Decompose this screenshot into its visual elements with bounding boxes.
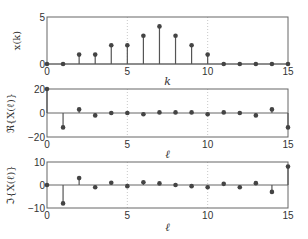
stem-marker: [205, 185, 210, 190]
x-tick-label: 5: [125, 210, 131, 221]
axes-box: [47, 17, 288, 64]
stem-marker: [93, 52, 98, 57]
y-axis-label: ℑ{X(ℓ)}: [5, 165, 16, 204]
stem-marker: [109, 111, 114, 116]
x-axis-label: ℓ: [165, 221, 170, 234]
stem-marker: [238, 185, 243, 190]
stem-marker: [238, 62, 243, 67]
x-tick-label: 15: [282, 210, 294, 221]
stem-marker: [238, 111, 243, 116]
stem-marker: [77, 107, 82, 112]
stem-marker: [205, 52, 210, 57]
stem-marker: [221, 62, 226, 67]
stem-marker: [173, 110, 178, 115]
stem-marker: [157, 24, 162, 29]
stem-marker: [109, 180, 114, 185]
x-tick-label: 5: [125, 66, 131, 77]
stem-marker: [93, 113, 98, 118]
stem-marker: [270, 62, 275, 67]
stem-marker: [93, 185, 98, 190]
stem-marker: [141, 112, 146, 117]
stem-marker: [254, 113, 259, 118]
stem-marker: [286, 164, 291, 169]
x-tick-label: 0: [44, 210, 50, 221]
y-axis-label: ℜ{X(ℓ)}: [5, 93, 16, 133]
y-tick-label: 5: [39, 12, 45, 23]
y-axis-label: x(k): [11, 31, 22, 51]
x-tick-label: 0: [44, 66, 50, 77]
x-axis-label: k: [164, 75, 171, 88]
stem-marker: [61, 125, 66, 130]
stem-marker: [77, 176, 82, 181]
stem-marker: [221, 182, 226, 187]
stem-marker: [173, 34, 178, 39]
stem-marker: [61, 201, 66, 206]
stem-marker: [157, 181, 162, 186]
stem-marker: [125, 184, 130, 189]
stem-marker: [286, 125, 291, 130]
x-tick-label: 5: [125, 139, 131, 150]
y-tick-label: 0: [39, 59, 45, 70]
x-tick-label: 15: [282, 139, 294, 150]
x-tick-label: 10: [202, 66, 214, 77]
stem-marker: [173, 183, 178, 188]
x-tick-label: 0: [44, 139, 50, 150]
stem-marker: [205, 112, 210, 117]
stem-marker: [189, 43, 194, 48]
y-tick-label: 20: [34, 84, 46, 95]
stem-marker: [141, 180, 146, 185]
y-tick-label: 0: [39, 180, 45, 191]
stem-plot-figure: 05101505kx(k)051015−20020ℓℜ{X(ℓ)}051015−…: [0, 0, 308, 239]
x-axis-label: ℓ: [165, 148, 170, 161]
stem-marker: [141, 34, 146, 39]
stem-marker: [270, 107, 275, 112]
stem-marker: [189, 184, 194, 189]
stem-panel-3: 051015−10010ℓℑ{X(ℓ)}: [5, 157, 294, 235]
stem-marker: [77, 52, 82, 57]
stem-marker: [109, 43, 114, 48]
y-tick-label: −10: [28, 203, 45, 214]
x-tick-label: 10: [202, 210, 214, 221]
stem-marker: [254, 181, 259, 186]
x-tick-label: 15: [282, 66, 294, 77]
stem-marker: [221, 110, 226, 115]
stem-marker: [45, 87, 50, 92]
stem-panel-1: 05101505kx(k): [11, 12, 294, 89]
stem-marker: [157, 110, 162, 115]
stem-marker: [45, 183, 50, 188]
y-tick-label: 10: [34, 157, 46, 168]
stem-marker: [125, 43, 130, 48]
stem-marker: [254, 62, 259, 67]
stem-marker: [61, 62, 66, 67]
x-tick-label: 10: [202, 139, 214, 150]
stem-marker: [189, 110, 194, 115]
y-tick-label: −20: [28, 132, 45, 143]
stem-marker: [270, 190, 275, 195]
y-tick-label: 0: [39, 108, 45, 119]
stem-marker: [125, 111, 130, 116]
stem-panel-2: 051015−20020ℓℜ{X(ℓ)}: [5, 84, 294, 162]
